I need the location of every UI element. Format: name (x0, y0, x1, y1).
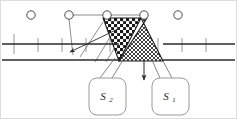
leader-s1-b (163, 61, 172, 78)
spoke-node3-diagonal (80, 22, 103, 57)
callout-s2-label: S (100, 90, 106, 102)
diagram-svg: S 2 S 1 (0, 0, 237, 119)
spoke-node2-down (69, 19, 73, 55)
figure-canvas: S 2 S 1 (0, 0, 237, 119)
callout-s1-box[interactable] (152, 78, 189, 115)
node-1 (27, 11, 35, 19)
callout-s2[interactable]: S 2 (89, 78, 126, 115)
callout-s2-subscript: 2 (109, 96, 113, 104)
node-2 (65, 11, 73, 19)
leader-s1-a (152, 60, 160, 78)
node-5 (174, 11, 182, 19)
node-4 (140, 11, 148, 19)
callout-s2-box[interactable] (89, 78, 126, 115)
node-3 (103, 11, 111, 19)
leader-s2-a (100, 58, 115, 78)
callout-s1[interactable]: S 1 (152, 78, 189, 115)
callout-s1-label: S (163, 90, 169, 102)
callout-s1-subscript: 1 (172, 96, 176, 104)
node-group (27, 11, 182, 19)
leader-s2-b (112, 60, 123, 78)
